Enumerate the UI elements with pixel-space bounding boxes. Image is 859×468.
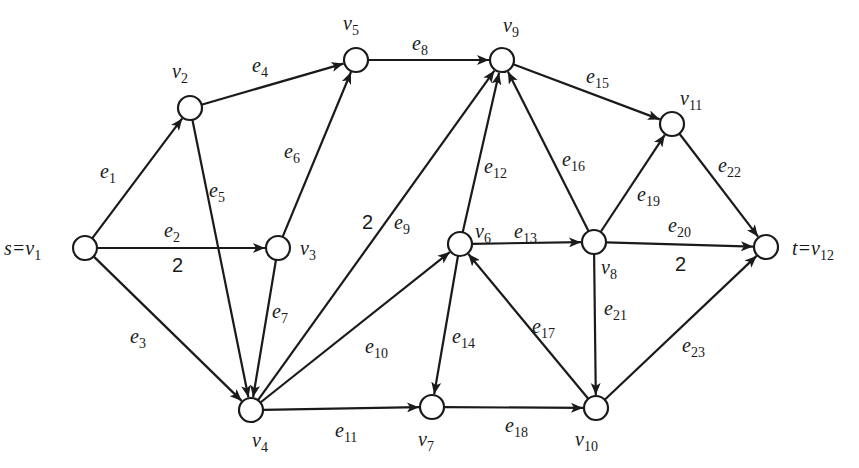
node-label-v5: v5	[343, 12, 359, 38]
capacity-label-e20: 2	[675, 253, 686, 275]
edge-e21	[594, 254, 596, 395]
edge-e19	[601, 135, 665, 232]
edge-e18	[444, 407, 583, 408]
edge-e7	[253, 260, 276, 397]
edge-labels-layer: e1e22e3e4e5e6e7e8e92e10e11e12e13e14e15e1…	[100, 32, 741, 445]
node-v1	[73, 236, 97, 260]
node-v2	[178, 96, 202, 120]
edge-label-e7: e7	[272, 300, 288, 326]
node-label-v9: v9	[503, 14, 519, 40]
edge-e20	[606, 242, 753, 246]
node-v7	[420, 395, 444, 419]
edge-e17	[468, 254, 588, 399]
node-v4	[239, 398, 263, 422]
edge-e16	[508, 72, 589, 232]
node-v8	[582, 230, 606, 254]
edge-label-e18: e18	[505, 414, 528, 440]
node-v9	[490, 48, 514, 72]
edge-label-e14: e14	[452, 325, 475, 351]
edge-e4	[202, 64, 344, 105]
node-label-v8: v8	[601, 256, 617, 282]
node-label-v11: v11	[680, 87, 702, 113]
node-label-v4: v4	[252, 429, 268, 455]
edge-e10	[260, 252, 449, 402]
edge-label-e22: e22	[718, 154, 741, 180]
node-labels-layer: s=v1v2v3v4v5v6v7v8v9v10v11t=v12	[4, 12, 834, 455]
edge-label-e8: e8	[412, 32, 428, 58]
edge-label-e6: e6	[284, 140, 300, 166]
edge-label-e19: e19	[637, 183, 660, 209]
node-v6	[448, 232, 472, 256]
node-v12	[754, 235, 778, 259]
edge-label-e4: e4	[252, 54, 268, 80]
edge-label-e16: e16	[562, 148, 585, 174]
node-label-v7: v7	[418, 428, 434, 454]
node-label-v3: v3	[300, 237, 316, 263]
edge-label-e12: e12	[484, 155, 507, 181]
edge-e11	[263, 407, 419, 410]
edge-e3	[94, 256, 242, 401]
node-label-v6: v6	[475, 220, 491, 246]
node-label-v10: v10	[575, 428, 598, 454]
edge-label-e23: e23	[682, 334, 705, 360]
edge-label-e15: e15	[586, 65, 609, 91]
edge-label-e11: e11	[335, 419, 357, 445]
edge-label-e20: e20	[668, 214, 691, 240]
capacity-label-e9: 2	[362, 211, 373, 233]
capacity-label-e2: 2	[172, 254, 183, 276]
network-flow-diagram: e1e22e3e4e5e6e7e8e92e10e11e12e13e14e15e1…	[0, 0, 859, 468]
node-label-v12: t=v12	[792, 237, 834, 263]
edge-label-e5: e5	[209, 179, 225, 205]
edge-e5	[192, 120, 248, 398]
edge-label-e1: e1	[100, 160, 116, 186]
node-v5	[344, 48, 368, 72]
edge-e22	[679, 134, 758, 237]
node-v11	[660, 112, 684, 136]
node-v10	[584, 396, 608, 420]
edge-e23	[605, 256, 757, 400]
edge-label-e17: e17	[532, 315, 555, 341]
edge-label-e3: e3	[130, 325, 146, 351]
edge-label-e2: e2	[164, 219, 180, 245]
edge-label-e9: e9	[394, 211, 410, 237]
edge-label-e10: e10	[365, 335, 388, 361]
node-label-v1: s=v1	[4, 237, 41, 263]
edge-label-e21: e21	[604, 297, 627, 323]
node-label-v2: v2	[172, 60, 188, 86]
node-v3	[266, 236, 290, 260]
edge-e12	[463, 73, 499, 233]
graph-canvas: e1e22e3e4e5e6e7e8e92e10e11e12e13e14e15e1…	[0, 0, 859, 468]
